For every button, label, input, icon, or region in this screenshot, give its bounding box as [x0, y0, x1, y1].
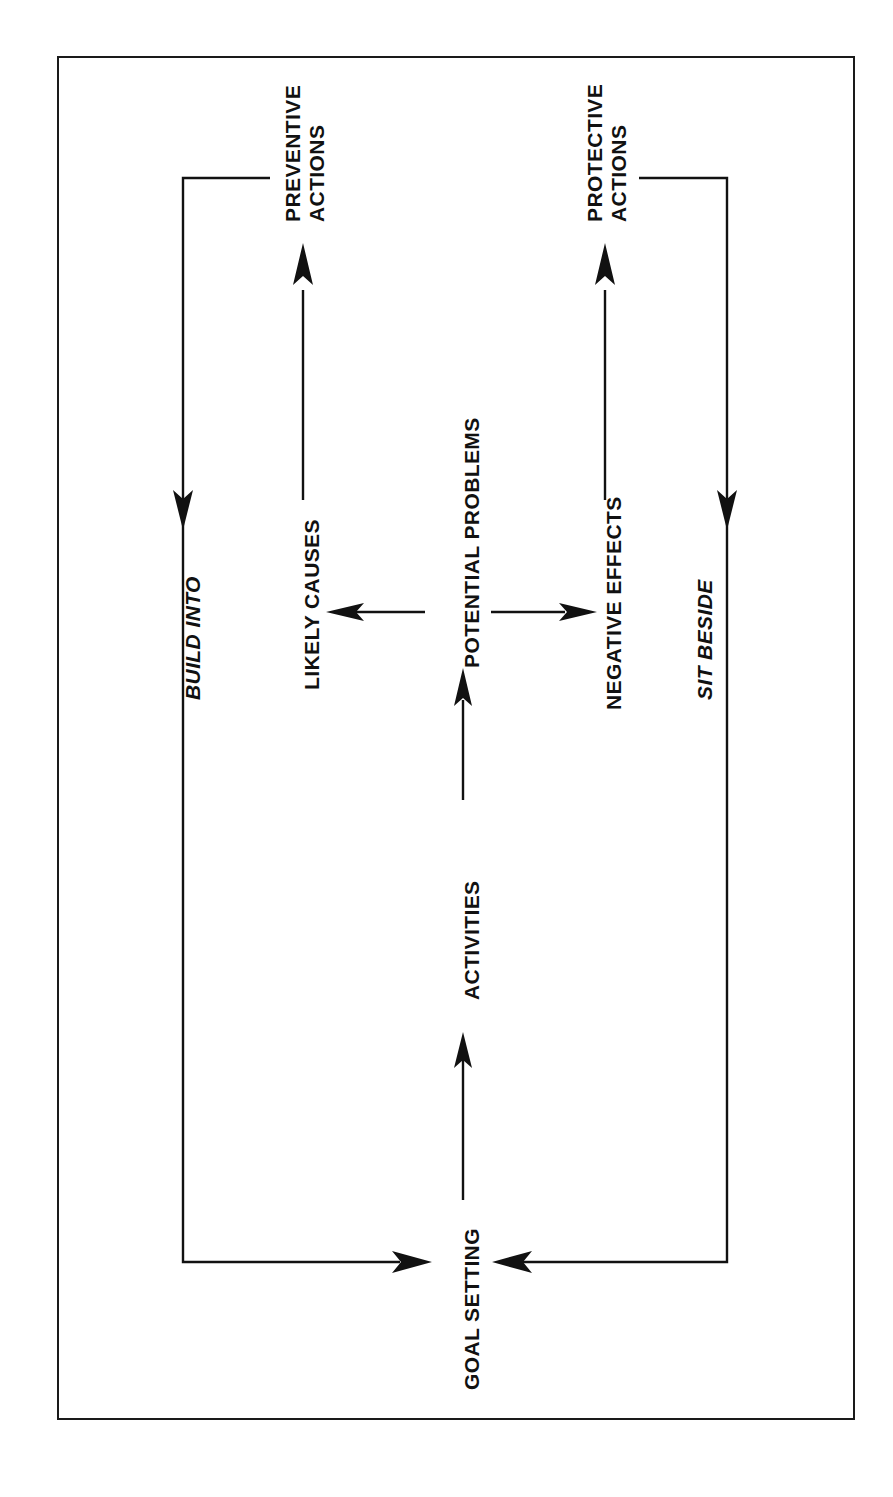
diagram-container: PREVENTIVE ACTIONS PROTECTIVE ACTIONS LI…: [0, 0, 893, 1497]
flow-diagram: PREVENTIVE ACTIONS PROTECTIVE ACTIONS LI…: [0, 0, 893, 1497]
node-label-preventive-actions-line1: PREVENTIVE: [281, 85, 304, 222]
node-label-activities: ACTIVITIES: [460, 880, 483, 1000]
node-goal-setting: GOAL SETTING: [460, 1228, 483, 1390]
edge-label-sit-beside: SIT BESIDE: [693, 579, 716, 700]
edge-label-build-into-text: BUILD INTO: [181, 576, 204, 700]
edge-likely-causes-to-preventive-actions: [293, 243, 313, 500]
node-label-likely-causes: LIKELY CAUSES: [300, 519, 323, 690]
node-potential-problems: POTENTIAL PROBLEMS: [460, 417, 483, 668]
edge-protective-actions-to-goalsetting: [492, 178, 737, 1273]
edge-potential-problems-to-negative-effects: [491, 603, 597, 621]
edge-activities-to-potential-problems: [454, 668, 472, 800]
node-label-negative-effects: NEGATIVE EFFECTS: [602, 496, 625, 710]
edge-potential-problems-to-likely-causes: [326, 603, 425, 621]
node-label-protective-actions-line2: ACTIONS: [607, 125, 630, 222]
page-canvas: PREVENTIVE ACTIONS PROTECTIVE ACTIONS LI…: [0, 0, 893, 1497]
node-label-protective-actions-line1: PROTECTIVE: [583, 84, 606, 222]
node-likely-causes: LIKELY CAUSES: [300, 519, 323, 690]
arrowhead-up: [595, 243, 615, 285]
node-label-goal-setting: GOAL SETTING: [460, 1228, 483, 1390]
node-label-preventive-actions-line2: ACTIONS: [305, 125, 328, 222]
edge-negative-effects-to-protective-actions: [595, 243, 615, 500]
node-preventive-actions: PREVENTIVE ACTIONS: [281, 85, 328, 222]
node-label-potential-problems: POTENTIAL PROBLEMS: [460, 417, 483, 668]
node-negative-effects: NEGATIVE EFFECTS: [602, 496, 625, 710]
edge-label-sit-beside-text: SIT BESIDE: [693, 579, 716, 700]
edge-goalsetting-to-activities: [454, 1032, 472, 1200]
node-activities: ACTIVITIES: [460, 880, 483, 1000]
arrowhead-up: [293, 243, 313, 285]
node-protective-actions: PROTECTIVE ACTIONS: [583, 84, 630, 222]
edge-label-build-into: BUILD INTO: [181, 576, 204, 700]
